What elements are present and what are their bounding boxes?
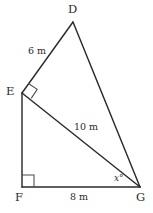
vertex-label-D: D [68,4,77,16]
edge-DG [73,22,140,187]
figure-canvas [0,0,153,213]
side-label-EG: 10 m [74,122,98,132]
vertex-label-E: E [6,86,14,98]
side-label-FG: 8 m [70,192,88,202]
side-label-DE: 6 m [28,46,46,56]
right-angle-E-icon [28,83,37,98]
vertex-label-F: F [15,192,23,204]
angle-label-x: x° [114,174,124,183]
vertex-label-G: G [136,192,145,204]
geometry-diagram: D E F G 6 m 10 m 8 m x° [0,0,153,213]
edge-DE [22,22,73,93]
right-angle-F-icon [22,175,34,187]
